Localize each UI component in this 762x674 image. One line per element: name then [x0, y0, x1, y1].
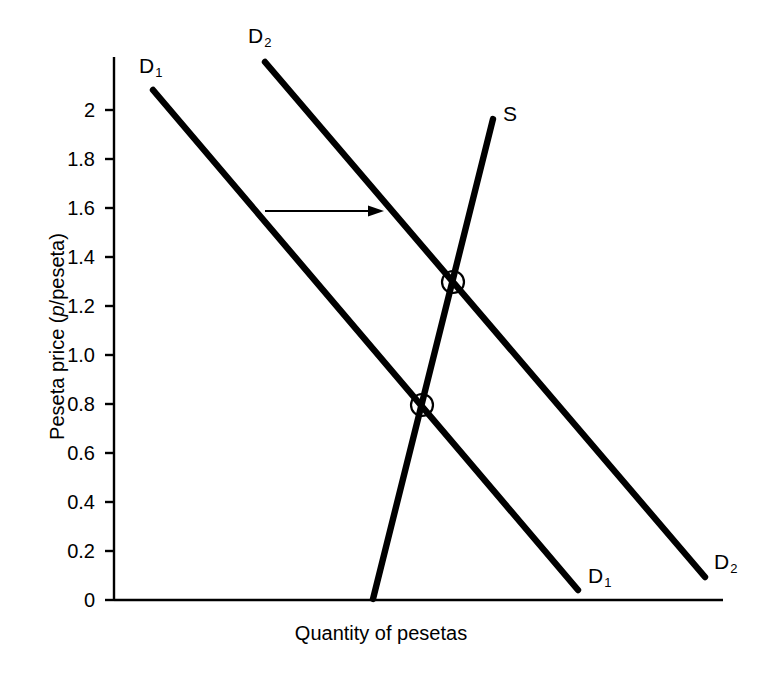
curve-label-s-letter: S	[503, 102, 517, 125]
demand-curve-d1	[153, 90, 578, 590]
x-axis-title: Quantity of pesetas	[0, 622, 762, 645]
demand-shift-arrow	[265, 206, 384, 217]
curve-label-d2-bottom-subscript: 2	[730, 561, 737, 576]
curve-label-d1-top-letter: D	[139, 54, 154, 77]
curve-label-s: S	[503, 103, 517, 124]
y-axis-title-suffix: /peseta)	[46, 233, 68, 305]
curve-label-d2-bottom-letter: D	[714, 550, 729, 573]
supply-curve-s	[373, 119, 493, 599]
y-axis-title-prefix: Peseta price (	[46, 317, 68, 440]
curve-label-d2-top-subscript: 2	[264, 35, 271, 50]
y-axis-title-italic-p: p	[46, 305, 68, 316]
y-axis-title: Peseta price (p/peseta)	[46, 147, 69, 527]
curve-label-d1-bottom-subscript: 1	[604, 575, 611, 590]
y-axis-tick-marks	[105, 110, 114, 600]
y-tick-label-0: 0	[43, 590, 95, 610]
curve-label-d1-bottom: D1	[588, 565, 611, 586]
chart-canvas	[0, 0, 762, 674]
curve-label-d2-top-letter: D	[248, 24, 263, 47]
curve-label-d1-bottom-letter: D	[588, 564, 603, 587]
curve-label-d1-top-subscript: 1	[155, 65, 162, 80]
supply-demand-figure: 0 0.2 0.4 0.6 0.8 1.0 1.2 1.4 1.6 1.8 2 …	[0, 0, 762, 674]
curve-label-d1-top: D1	[139, 55, 162, 76]
y-tick-label-0-2: 0.2	[43, 541, 95, 561]
curve-label-d2-top: D2	[248, 25, 271, 46]
y-tick-label-2-0: 2	[43, 100, 95, 120]
curve-label-d2-bottom: D2	[714, 551, 737, 572]
